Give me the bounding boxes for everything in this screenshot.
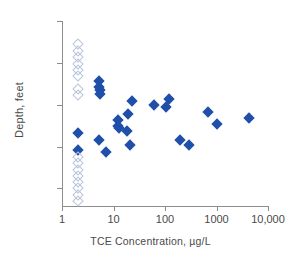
data-point-detected: [149, 99, 160, 110]
plot-area: 010203040 110100100010,000: [62, 21, 268, 201]
data-point-detected: [100, 146, 111, 157]
y-axis-title: Depth, feet: [13, 65, 25, 155]
x-axis-tick: [62, 206, 63, 211]
scatter-chart: Depth, feet 010203040 110100100010,000 T…: [0, 0, 301, 263]
x-axis-tick-label: 1: [59, 213, 65, 225]
data-point-detected: [124, 140, 135, 151]
x-axis-tick: [114, 206, 115, 211]
data-point-detected: [183, 140, 194, 151]
x-axis-tick: [165, 206, 166, 211]
x-axis-tick: [268, 206, 269, 211]
x-axis-tick-label: 1000: [204, 213, 228, 225]
data-point-detected: [72, 128, 83, 139]
y-axis-tick: [57, 188, 62, 189]
data-point-detected: [122, 108, 133, 119]
data-point-detected: [202, 107, 213, 118]
x-axis-tick-label: 100: [156, 213, 174, 225]
y-axis-tick: [57, 105, 62, 106]
x-axis-title: TCE Concentration, µg/L: [0, 235, 301, 247]
y-axis-tick: [57, 63, 62, 64]
y-axis-line: [62, 21, 63, 206]
data-point-nondetect: [72, 71, 83, 82]
x-axis-tick: [217, 206, 218, 211]
x-axis-tick-label: 10,000: [251, 213, 285, 225]
data-point-detected: [93, 134, 104, 145]
y-axis-tick: [57, 147, 62, 148]
data-point-detected: [211, 119, 222, 130]
x-axis-tick-label: 10: [107, 213, 119, 225]
data-point-detected: [243, 112, 254, 123]
data-point-detected: [126, 96, 137, 107]
y-axis-tick: [57, 21, 62, 22]
